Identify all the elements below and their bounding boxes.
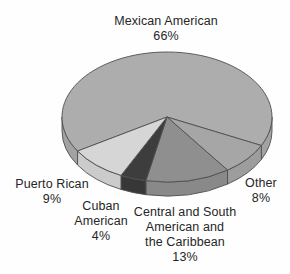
slice-label-other: Other 8% [245, 176, 277, 206]
slice-label-mexican-american: Mexican American 66% [114, 14, 218, 44]
slice-label-puerto-rican: Puerto Rican 9% [15, 177, 88, 207]
slice-label-central-and-south-american-and-the-caribbean: Central and South American and the Carib… [134, 205, 236, 265]
pie-chart-figure: Mexican American 66% Other 8% Central an… [0, 0, 290, 274]
